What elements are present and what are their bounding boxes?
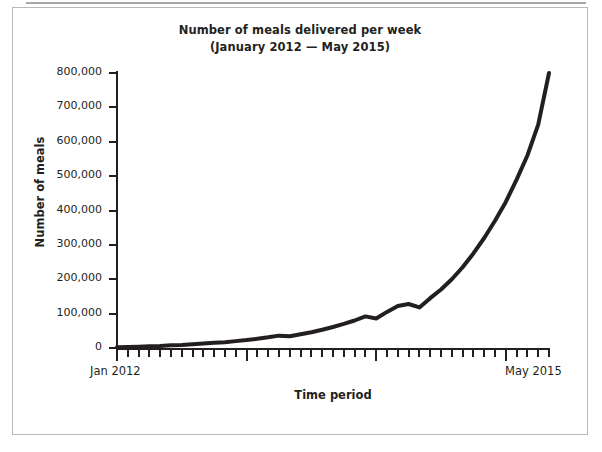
x-axis-start-label: Jan 2012	[90, 364, 141, 378]
x-tick-minor	[202, 350, 204, 357]
x-tick-minor	[332, 350, 334, 357]
x-tick-major	[246, 350, 248, 361]
y-tick-label: 400,000	[34, 203, 102, 216]
y-tick-label: 800,000	[34, 65, 102, 78]
x-tick-minor	[343, 350, 345, 357]
x-tick-minor	[278, 350, 280, 357]
x-tick-minor	[462, 350, 464, 357]
x-tick-major	[116, 350, 118, 361]
y-tick	[109, 175, 116, 177]
chart-title-line2: (January 2012 — May 2015)	[60, 39, 540, 56]
x-tick-minor	[397, 350, 399, 357]
x-tick-minor	[321, 350, 323, 357]
chart-title-line1: Number of meals delivered per week	[179, 23, 422, 37]
y-tick	[109, 72, 116, 74]
x-tick-minor	[364, 350, 366, 357]
y-tick	[109, 210, 116, 212]
x-tick-minor	[256, 350, 258, 357]
x-tick-minor	[472, 350, 474, 357]
x-tick-minor	[289, 350, 291, 357]
x-tick-minor	[170, 350, 172, 357]
y-tick-label: 200,000	[34, 271, 102, 284]
x-tick-minor	[159, 350, 161, 357]
y-tick	[109, 278, 116, 280]
y-tick-label: 500,000	[34, 168, 102, 181]
page-top-rule	[26, 2, 586, 4]
y-tick	[109, 244, 116, 246]
x-tick-minor	[235, 350, 237, 357]
x-tick-minor	[526, 350, 528, 357]
x-tick-minor	[537, 350, 539, 357]
x-tick-minor	[386, 350, 388, 357]
x-tick-minor	[451, 350, 453, 357]
x-tick-minor	[548, 350, 550, 357]
y-tick	[109, 106, 116, 108]
x-tick-minor	[440, 350, 442, 357]
x-tick-minor	[224, 350, 226, 357]
y-tick-label: 700,000	[34, 99, 102, 112]
y-tick	[109, 141, 116, 143]
x-tick-minor	[354, 350, 356, 357]
x-tick-major	[375, 350, 377, 361]
y-axis-line	[116, 71, 118, 350]
x-tick-minor	[418, 350, 420, 357]
y-tick-label: 600,000	[34, 134, 102, 147]
x-tick-minor	[483, 350, 485, 357]
y-axis-title: Number of meals	[33, 132, 47, 252]
x-tick-minor	[181, 350, 183, 357]
x-tick-minor	[148, 350, 150, 357]
x-tick-minor	[494, 350, 496, 357]
x-tick-minor	[127, 350, 129, 357]
x-axis-end-label: May 2015	[505, 364, 562, 378]
x-axis-title: Time period	[117, 388, 549, 402]
y-tick-label: 300,000	[34, 237, 102, 250]
chart-title: Number of meals delivered per week (Janu…	[60, 22, 540, 56]
x-tick-minor	[300, 350, 302, 357]
x-tick-minor	[429, 350, 431, 357]
x-tick-minor	[408, 350, 410, 357]
y-tick-label: 0	[34, 340, 102, 353]
x-tick-minor	[267, 350, 269, 357]
x-tick-minor	[310, 350, 312, 357]
x-tick-minor	[138, 350, 140, 357]
y-tick	[109, 313, 116, 315]
x-tick-minor	[192, 350, 194, 357]
y-tick	[109, 347, 116, 349]
y-tick-label: 100,000	[34, 306, 102, 319]
x-tick-minor	[516, 350, 518, 357]
x-tick-major	[505, 350, 507, 361]
x-tick-minor	[213, 350, 215, 357]
